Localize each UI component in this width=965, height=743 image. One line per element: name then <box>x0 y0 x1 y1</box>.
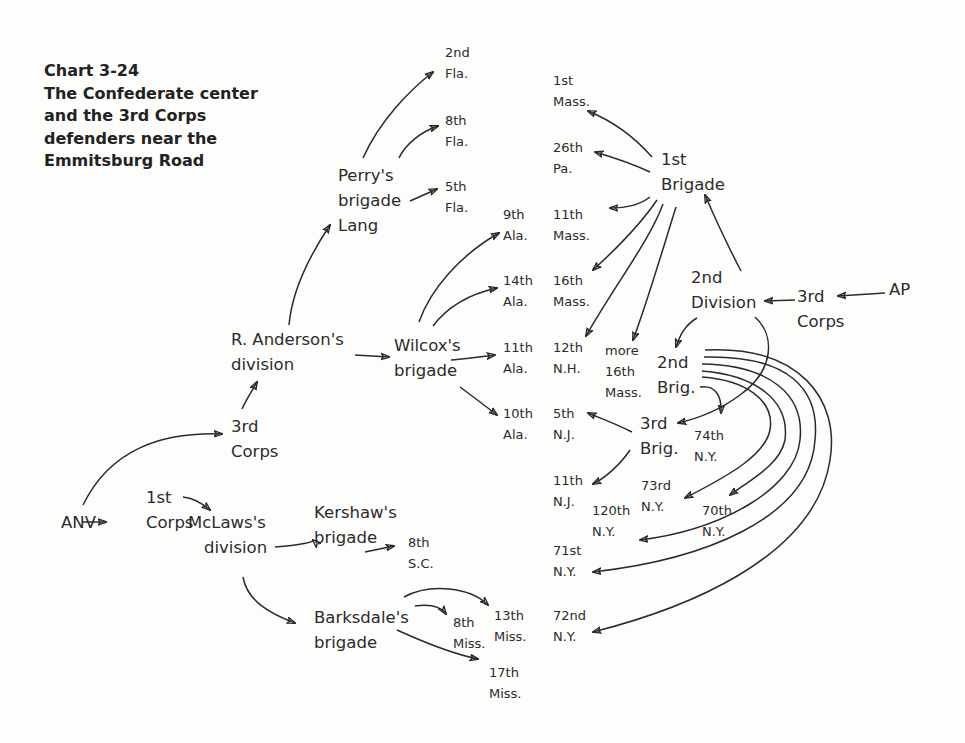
node-label: division <box>231 352 344 377</box>
node-label: N.Y. <box>694 446 724 467</box>
node-label: 14th <box>503 270 533 291</box>
node-label: 3rd <box>797 284 844 309</box>
node-3rd-corps-confederate: 3rdCorps <box>231 414 278 464</box>
node-3rd-corps-union: 3rdCorps <box>797 284 844 334</box>
node-label: 71st <box>553 540 581 561</box>
node-label: S.C. <box>408 553 434 574</box>
node-2nd-division: 2ndDivision <box>691 265 756 315</box>
node-70th-ny: 70thN.Y. <box>702 500 732 542</box>
node-label: Fla. <box>445 197 468 218</box>
node-label: Corps <box>146 510 193 535</box>
node-label: 8th <box>408 532 434 553</box>
node-74th-ny: 74thN.Y. <box>694 425 724 467</box>
node-anv: ANV <box>61 510 96 535</box>
node-label: division <box>188 535 267 560</box>
node-2nd-brig: 2ndBrig. <box>657 350 695 400</box>
node-label: Mass. <box>553 225 590 246</box>
node-label: AP <box>889 277 910 302</box>
node-8th-sc: 8thS.C. <box>408 532 434 574</box>
node-label: Division <box>691 290 756 315</box>
node-11th-mass: 11thMass. <box>553 204 590 246</box>
node-ap: AP <box>889 277 910 302</box>
node-label: Ala. <box>503 225 528 246</box>
node-3rd-brig: 3rdBrig. <box>640 411 678 461</box>
node-label: 17th <box>489 662 522 683</box>
node-label: N.Y. <box>553 561 581 582</box>
node-label: 8th <box>445 110 468 131</box>
node-label: N.J. <box>553 424 575 445</box>
node-label: Ala. <box>503 358 533 379</box>
node-11th-nj: 11thN.J. <box>553 470 583 512</box>
node-label: Kershaw's <box>314 500 397 525</box>
node-label: Mass. <box>605 382 642 403</box>
node-12th-nh: 12thN.H. <box>553 337 583 379</box>
node-label: Miss. <box>494 626 527 647</box>
node-label: brigade <box>314 525 397 550</box>
node-label: Fla. <box>445 63 470 84</box>
node-1st-brigade: 1stBrigade <box>661 147 725 197</box>
node-13th-miss: 13thMiss. <box>494 605 527 647</box>
node-label: 11th <box>553 470 583 491</box>
node-label: 16th <box>605 361 642 382</box>
node-label: 8th <box>453 612 486 633</box>
node-label: 9th <box>503 204 528 225</box>
node-label: 3rd <box>640 411 678 436</box>
node-label: 70th <box>702 500 732 521</box>
node-label: Fla. <box>445 131 468 152</box>
node-label: ANV <box>61 510 96 535</box>
node-5th-fla: 5thFla. <box>445 176 468 218</box>
node-label: Ala. <box>503 291 533 312</box>
title-line: Emmitsburg Road <box>44 150 258 173</box>
node-label: 5th <box>553 403 575 424</box>
node-label: 1st <box>146 485 193 510</box>
title-line: The Confederate center <box>44 83 258 106</box>
chart-label: Chart 3-24 <box>44 60 258 83</box>
node-label: 11th <box>553 204 590 225</box>
node-1st-mass: 1stMass. <box>553 70 590 112</box>
node-label: R. Anderson's <box>231 327 344 352</box>
node-kershaw-brigade: Kershaw'sbrigade <box>314 500 397 550</box>
title-line: and the 3rd Corps <box>44 105 258 128</box>
node-label: 2nd <box>445 42 470 63</box>
node-71st-ny: 71stN.Y. <box>553 540 581 582</box>
node-2nd-fla: 2ndFla. <box>445 42 470 84</box>
node-label: Corps <box>231 439 278 464</box>
node-label: N.Y. <box>702 521 732 542</box>
node-label: Pa. <box>553 158 583 179</box>
chart-title: Chart 3-24 The Confederate center and th… <box>44 60 258 173</box>
node-72nd-ny: 72ndN.Y. <box>553 605 586 647</box>
node-label: Ala. <box>503 424 533 445</box>
node-label: brigade <box>338 188 401 213</box>
node-label: 73rd <box>641 475 671 496</box>
node-label: Perry's <box>338 163 401 188</box>
node-label: 72nd <box>553 605 586 626</box>
node-label: N.Y. <box>592 521 630 542</box>
node-label: Brig. <box>657 375 695 400</box>
node-label: N.Y. <box>553 626 586 647</box>
node-label: 10th <box>503 403 533 424</box>
node-label: 26th <box>553 137 583 158</box>
node-11th-ala: 11thAla. <box>503 337 533 379</box>
node-label: 3rd <box>231 414 278 439</box>
node-17th-miss: 17thMiss. <box>489 662 522 704</box>
node-mclaws-division: McLaws'sdivision <box>188 510 267 560</box>
node-label: N.Y. <box>641 496 671 517</box>
node-label: 74th <box>694 425 724 446</box>
node-label: 1st <box>553 70 590 91</box>
node-label: 12th <box>553 337 583 358</box>
node-label: Mass. <box>553 91 590 112</box>
node-1st-corps: 1stCorps <box>146 485 193 535</box>
node-perry-brigade: Perry'sbrigadeLang <box>338 163 401 238</box>
node-wilcox-brigade: Wilcox'sbrigade <box>394 333 461 383</box>
node-120th-ny: 120thN.Y. <box>592 500 630 542</box>
node-8th-miss: 8thMiss. <box>453 612 486 654</box>
node-label: Brigade <box>661 172 725 197</box>
node-10th-ala: 10thAla. <box>503 403 533 445</box>
node-label: Mass. <box>553 291 590 312</box>
node-16th-mass: 16thMass. <box>553 270 590 312</box>
node-label: 16th <box>553 270 590 291</box>
node-label: McLaws's <box>188 510 267 535</box>
node-label: N.J. <box>553 491 583 512</box>
node-5th-nj: 5thN.J. <box>553 403 575 445</box>
node-label: 5th <box>445 176 468 197</box>
